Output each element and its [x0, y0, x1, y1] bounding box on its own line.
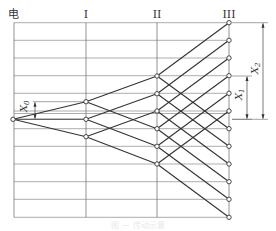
arrow-up-icon	[246, 76, 249, 81]
node-III	[227, 38, 231, 42]
branch-line	[157, 129, 229, 182]
branch-line	[86, 137, 157, 164]
node-III	[227, 74, 231, 78]
arrow-up-icon	[34, 102, 37, 107]
column-label-I: I	[84, 8, 88, 21]
dimension-label-X1: X1	[233, 88, 246, 101]
node-I	[84, 117, 88, 121]
node-III	[227, 215, 231, 219]
arrow-down-icon	[262, 114, 265, 119]
dimension-label-X2: X2	[249, 62, 262, 75]
node-II	[155, 162, 159, 166]
column-lines	[14, 23, 229, 218]
node-III	[227, 21, 231, 25]
node-II	[155, 74, 159, 78]
node-III	[227, 162, 231, 166]
node-I	[84, 100, 88, 104]
arrow-down-icon	[246, 114, 249, 119]
node-III	[227, 109, 231, 113]
nodes	[11, 21, 231, 220]
node-II	[155, 144, 159, 148]
column-label-III: III	[222, 8, 235, 21]
node-I	[84, 135, 88, 139]
node-III	[227, 144, 231, 148]
node-source	[11, 117, 15, 121]
arrow-up-icon	[262, 23, 265, 28]
arrow-down-icon	[34, 114, 37, 119]
branch-line	[157, 164, 229, 217]
horizontal-grid	[14, 23, 229, 218]
node-II	[155, 109, 159, 113]
node-III	[227, 56, 231, 60]
node-III	[227, 180, 231, 184]
branch-line	[157, 146, 229, 199]
column-labels: 电IIIIII	[8, 8, 236, 21]
branch-line	[157, 40, 229, 93]
branch-line	[13, 119, 86, 136]
node-II	[155, 127, 159, 131]
column-label-II: II	[153, 8, 162, 21]
node-III	[227, 91, 231, 95]
branching-diagram: 电IIIIII X0X1X2 图 — 传动示意	[0, 0, 276, 231]
node-III	[227, 197, 231, 201]
branch-line	[157, 23, 229, 76]
figure-caption: 图 — 传动示意	[111, 220, 164, 230]
node-III	[227, 127, 231, 131]
branch-lines	[13, 23, 229, 218]
node-II	[155, 92, 159, 96]
dimension-annotations: X0X1X2	[18, 23, 268, 120]
column-label-source: 电	[8, 8, 19, 21]
